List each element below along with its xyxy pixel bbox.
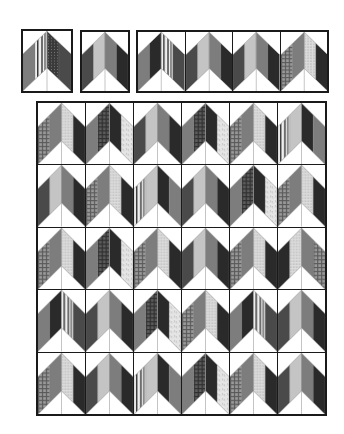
quilt-block-r5-c5 [230,353,277,414]
quilt-block-r5-c1 [38,353,85,414]
quilt-block-r5-c2 [86,353,133,414]
block-strip-row [136,30,329,93]
quilt-block-r2-c5 [230,165,277,226]
quilt-block-r4-c3 [134,290,181,351]
quilt-block-r1-c5 [230,103,277,164]
quilt-block-r2-c3 [134,165,181,226]
quilt-block-r1-c1 [38,103,85,164]
quilt-block-r1-c4 [182,103,229,164]
quilt-block-r1-c6 [278,103,325,164]
quilt-block-r2-c1 [38,165,85,226]
quilt-block-r3-c4 [182,228,229,289]
quilt-block-r2-c2 [86,165,133,226]
quilt-block-r4-c2 [86,290,133,351]
quilt-block-r5-c6 [278,353,325,414]
quilt-block-r5-c3 [134,353,181,414]
quilt-block-r4-c6 [278,290,325,351]
quilt-layout-grid [36,101,327,416]
quilt-block-r3-c1 [38,228,85,289]
quilt-block-r3-c5 [230,228,277,289]
quilt-block-r2-c4 [182,165,229,226]
quilt-block-r1-c2 [86,103,133,164]
quilt-block-r4-c4 [182,290,229,351]
quilt-block-r5-c4 [182,353,229,414]
quilt-block-r1-c3 [134,103,181,164]
quilt-block-r4-c5 [230,290,277,351]
single-block-sample-2 [80,30,130,93]
quilt-block-r3-c2 [86,228,133,289]
strip-block-3 [233,32,280,91]
strip-block-4 [281,32,328,91]
quilt-block-r4-c1 [38,290,85,351]
strip-block-2 [186,32,233,91]
single-block-sample-1 [21,29,73,93]
strip-block-1 [138,32,185,91]
quilt-block-r3-c6 [278,228,325,289]
quilt-block-r3-c3 [134,228,181,289]
quilt-block-r2-c6 [278,165,325,226]
